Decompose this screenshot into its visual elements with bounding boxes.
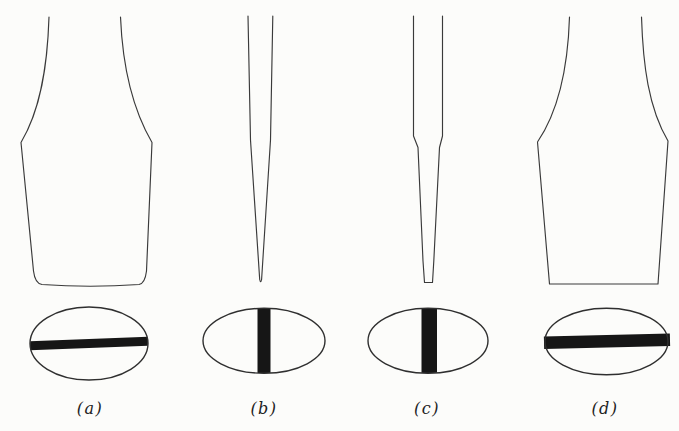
slot-bar-d [544,333,670,349]
screw-head-d [544,308,670,375]
blade-profile-a [21,17,152,286]
screw-head-c [368,306,488,376]
screw-head-a [27,307,151,380]
slot-bar-b [258,306,271,376]
slot-bar-c [422,306,438,376]
panel-label-b: (b) [250,399,277,418]
screwdriver-tips-diagram: (a) (b) (c) (d) [0,0,679,431]
panel-label-d: (d) [591,399,618,418]
panel-b: (b) [203,16,325,418]
figure-canvas: (a) (b) (c) (d) [0,0,679,431]
screw-head-b [203,306,325,376]
blade-profile-c [414,16,443,283]
slot-bar-a [27,337,151,351]
blade-profile-d [538,17,669,284]
panel-label-a: (a) [77,399,104,418]
blade-profile-b [248,16,273,282]
panel-label-c: (c) [414,399,440,418]
panel-a: (a) [21,17,152,418]
panel-c: (c) [368,16,488,418]
panel-d: (d) [538,17,671,418]
